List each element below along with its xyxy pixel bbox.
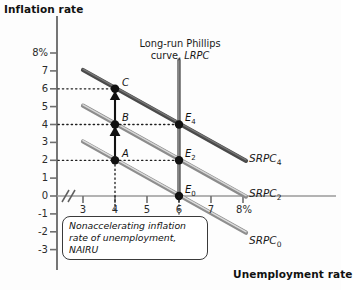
y-tick-neg1: -1	[22, 208, 48, 219]
x-tick-8: 8%	[232, 204, 256, 215]
srpc4-curve	[83, 69, 246, 161]
y-tick-5: 5	[26, 101, 48, 112]
lrpc-callout: Long-run Phillips curve, LRPC	[122, 38, 238, 61]
y-tick-4: 4	[26, 119, 48, 130]
point-E2	[175, 156, 183, 164]
nairu-callout-box: Nonaccelerating inflation rate of unempl…	[62, 216, 208, 260]
curve-label-srpc2: SRPC2	[249, 188, 281, 202]
curve-label-srpc0: SRPC0	[249, 235, 281, 249]
x-tick-3: 3	[73, 204, 93, 215]
y-tick-6: 6	[26, 83, 48, 94]
nairu-line2: rate of unemployment, NAIRU	[69, 232, 201, 256]
y-tick-0: 0	[26, 190, 48, 201]
point-C	[111, 85, 119, 93]
y-tick-7: 7	[26, 65, 48, 76]
point-A	[111, 156, 119, 164]
y-tick-8: 8%	[26, 47, 48, 58]
point-E4	[175, 120, 183, 128]
y-tick-2: 2	[26, 154, 48, 165]
point-label-E4: E4	[185, 112, 196, 127]
y-tick-3: 3	[26, 136, 48, 147]
y-tick-1: 1	[26, 172, 48, 183]
lrpc-callout-line2: curve, LRPC	[122, 50, 238, 62]
point-label-C: C	[122, 77, 129, 88]
point-label-A: A	[122, 148, 129, 159]
y-tick-neg2: -2	[22, 226, 48, 237]
point-label-E2: E2	[185, 148, 196, 163]
x-axis-ticks	[83, 196, 243, 203]
y-axis-title: Inflation rate	[4, 4, 64, 16]
nairu-line1: Nonaccelerating inflation	[69, 220, 201, 232]
y-tick-neg3: -3	[22, 244, 48, 255]
y-axis-ticks	[50, 53, 57, 250]
point-label-E0: E0	[185, 184, 196, 199]
x-tick-5: 5	[137, 204, 157, 215]
x-axis-title: Unemployment rate	[233, 269, 353, 281]
lrpc-callout-line2-prefix: curve,	[151, 50, 185, 61]
x-tick-6: 6	[169, 204, 189, 215]
lrpc-callout-line1: Long-run Phillips	[122, 38, 238, 50]
lrpc-abbrev: LRPC	[184, 50, 209, 61]
curve-label-srpc4: SRPC4	[249, 153, 281, 167]
srpc2-curve	[83, 105, 246, 197]
x-tick-7: 7	[201, 204, 221, 215]
x-tick-4: 4	[105, 204, 125, 215]
point-label-B: B	[122, 112, 129, 123]
point-B	[111, 120, 119, 128]
